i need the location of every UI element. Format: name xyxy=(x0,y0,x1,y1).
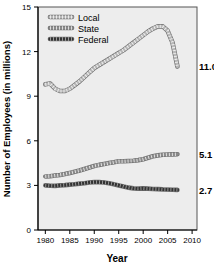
end-label-state: 5.1 xyxy=(199,149,213,160)
employment-line-chart: 03691215 1980198519901995200020052010 11… xyxy=(0,0,214,266)
y-axis-title: Number of Employees (in millions) xyxy=(1,41,12,197)
x-tick-label: 1985 xyxy=(61,236,79,245)
x-axis-title: Year xyxy=(106,253,127,264)
end-label-local: 11.0 xyxy=(199,61,214,72)
end-label-federal: 2.7 xyxy=(199,185,212,196)
legend-label-local: Local xyxy=(78,13,100,23)
x-tick-label: 2010 xyxy=(183,236,201,245)
x-tick-label: 1990 xyxy=(85,236,103,245)
x-tick-label: 1980 xyxy=(36,236,54,245)
y-tick-label: 9 xyxy=(27,92,32,101)
legend-label-federal: Federal xyxy=(78,35,109,45)
y-tick-label: 12 xyxy=(22,48,31,57)
y-tick-label: 6 xyxy=(27,137,32,146)
x-tick-label: 2005 xyxy=(159,236,177,245)
legend-label-state: State xyxy=(78,24,99,34)
x-tick-label: 2000 xyxy=(134,236,152,245)
x-tick-label: 1995 xyxy=(110,236,128,245)
y-tick-label: 3 xyxy=(27,181,32,190)
y-tick-label: 0 xyxy=(27,226,32,235)
y-tick-label: 15 xyxy=(22,3,31,12)
